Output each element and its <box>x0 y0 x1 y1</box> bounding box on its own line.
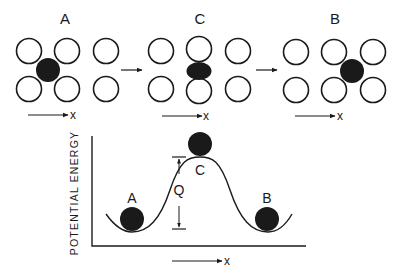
y-axis-label: POTENTIAL ENERGY <box>68 131 80 255</box>
diffusing-atom-a <box>36 58 60 82</box>
x-label-b: x <box>337 109 343 123</box>
point-c-label: C <box>195 162 205 178</box>
x-label-c: x <box>203 109 209 123</box>
panel-a-label: A <box>60 10 70 27</box>
barrier-q-label: Q <box>174 182 185 198</box>
x-label-a: x <box>70 108 76 122</box>
lattice-atoms-a <box>17 39 119 102</box>
diffusing-atom-c <box>187 62 212 80</box>
point-b-label: B <box>262 190 271 206</box>
diffusion-diagram: A x C x B x POTENTIAL ENERGY <box>0 0 398 275</box>
atom-b-ball <box>255 207 279 231</box>
atom-a-ball <box>120 207 144 231</box>
point-a-label: A <box>127 190 137 206</box>
energy-plot: POTENTIAL ENERGY A C B Q x <box>68 131 306 268</box>
panel-c-label: C <box>195 10 206 27</box>
diffusing-atom-b <box>340 59 364 83</box>
lattice-atoms-b <box>284 40 386 103</box>
panel-b-label: B <box>330 10 340 27</box>
panel-a: A x <box>17 10 119 122</box>
atom-c-ball <box>188 132 212 156</box>
x-axis-label: x <box>224 254 230 268</box>
panel-c: C x <box>149 10 251 123</box>
panel-b: B x <box>284 10 386 123</box>
